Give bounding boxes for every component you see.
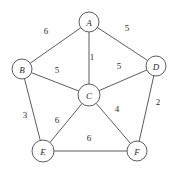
edge-weight-A-D: 5 xyxy=(125,23,130,33)
node-label-E: E xyxy=(39,147,46,157)
edge-weight-E-F: 6 xyxy=(87,133,92,143)
graph-node-F[interactable]: F xyxy=(127,141,147,161)
graph-node-C[interactable]: C xyxy=(78,84,100,106)
graph-figure: 6515536426 ABCDEF xyxy=(0,0,179,174)
edge-weight-A-C: 1 xyxy=(90,52,95,62)
graph-edge-A-B xyxy=(30,28,81,64)
node-label-D: D xyxy=(152,62,160,72)
edge-weight-C-D: 5 xyxy=(117,61,122,71)
node-label-A: A xyxy=(85,18,92,28)
node-label-B: B xyxy=(19,65,25,75)
node-label-C: C xyxy=(86,91,93,101)
edge-weight-D-F: 2 xyxy=(156,97,161,107)
graph-node-D[interactable]: D xyxy=(146,56,166,76)
graph-edge-C-F xyxy=(96,103,130,143)
graph-canvas: 6515536426 ABCDEF xyxy=(0,0,179,174)
edge-weight-B-E: 3 xyxy=(23,110,28,120)
graph-edge-B-C xyxy=(31,73,78,91)
edge-weight-A-B: 6 xyxy=(44,26,49,36)
edge-weight-B-C: 5 xyxy=(55,65,60,75)
graph-edge-D-F xyxy=(139,76,154,141)
edge-weights-layer: 6515536426 xyxy=(23,23,161,143)
graph-node-E[interactable]: E xyxy=(32,140,54,162)
graph-node-B[interactable]: B xyxy=(12,59,32,79)
edge-weight-C-F: 4 xyxy=(115,104,120,114)
graph-node-A[interactable]: A xyxy=(79,12,99,32)
graph-edge-C-D xyxy=(99,70,147,91)
node-label-F: F xyxy=(133,147,140,157)
graph-edge-A-D xyxy=(97,27,147,60)
edge-weight-C-E: 6 xyxy=(55,115,60,125)
